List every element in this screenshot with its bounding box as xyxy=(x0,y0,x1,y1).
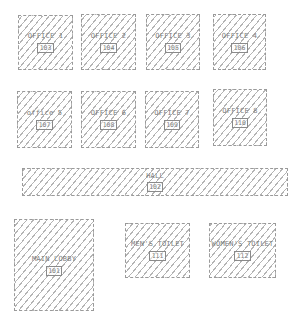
room-number: 108 xyxy=(100,120,117,130)
room-name: OFFICE 1 xyxy=(28,32,63,41)
room-office-5: office 5 107 xyxy=(17,91,72,148)
room-number: 107 xyxy=(36,120,53,130)
room-name: MAIN LOBBY xyxy=(32,255,76,264)
room-number: 103 xyxy=(37,43,54,53)
room-number: 111 xyxy=(149,251,166,261)
floor-plan: OFFICE 1 103 OFFICE 2 104 OFFICE 3 105 O… xyxy=(0,0,301,322)
room-office-3: OFFICE 3 105 xyxy=(146,14,200,70)
room-office-7: OFFICE 7 109 xyxy=(145,91,199,148)
room-name: OFFICE 2 xyxy=(91,32,126,41)
room-number: 102 xyxy=(147,182,164,192)
room-name: OFFICE 3 xyxy=(155,32,190,41)
room-number: 110 xyxy=(232,118,249,128)
room-number: 112 xyxy=(234,251,251,261)
room-number: 106 xyxy=(231,43,248,53)
room-name: HALL xyxy=(146,172,164,181)
room-main-lobby: MAIN LOBBY 101 xyxy=(14,219,94,311)
room-office-6: OFFICE 6 108 xyxy=(81,91,136,148)
room-womens-toilet: WOMEN'S TOILET 112 xyxy=(209,223,276,278)
room-office-1: OFFICE 1 103 xyxy=(18,15,73,70)
room-office-8: OFFICE 8 110 xyxy=(213,89,267,146)
room-name: OFFICE 8 xyxy=(222,107,257,116)
room-name: WOMEN'S TOILET xyxy=(212,240,274,249)
room-number: 101 xyxy=(46,266,63,276)
room-number: 105 xyxy=(165,43,182,53)
room-office-2: OFFICE 2 104 xyxy=(81,14,136,70)
room-hall: HALL 102 xyxy=(22,168,288,196)
room-name: OFFICE 4 xyxy=(222,32,257,41)
room-name: OFFICE 7 xyxy=(154,109,189,118)
room-number: 104 xyxy=(100,43,117,53)
room-name: MEN'S TOILET xyxy=(131,240,184,249)
room-office-4: OFFICE 4 106 xyxy=(213,14,266,70)
room-mens-toilet: MEN'S TOILET 111 xyxy=(125,223,190,278)
room-number: 109 xyxy=(164,120,181,130)
room-name: OFFICE 6 xyxy=(91,109,126,118)
room-name: office 5 xyxy=(27,109,62,118)
